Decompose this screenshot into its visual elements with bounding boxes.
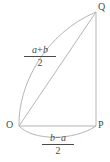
label-half-difference: b−a 2 [42, 133, 74, 156]
label-half-difference-denominator: 2 [42, 145, 74, 156]
numerator-term-right: b [43, 44, 48, 55]
label-arithmetic-mean: a+b 2 [24, 45, 56, 68]
label-arithmetic-mean-numerator: a+b [24, 45, 56, 56]
geometry-figure: O P Q a+b 2 b−a 2 [0, 0, 110, 162]
label-arithmetic-mean-denominator: 2 [24, 57, 56, 68]
vertex-label-o: O [6, 120, 13, 130]
vertex-label-q: Q [98, 2, 105, 12]
numerator-term-right: a [61, 132, 66, 143]
label-half-difference-numerator: b−a [42, 133, 74, 144]
vertex-label-p: P [98, 120, 104, 130]
segment-OQ [19, 12, 96, 126]
